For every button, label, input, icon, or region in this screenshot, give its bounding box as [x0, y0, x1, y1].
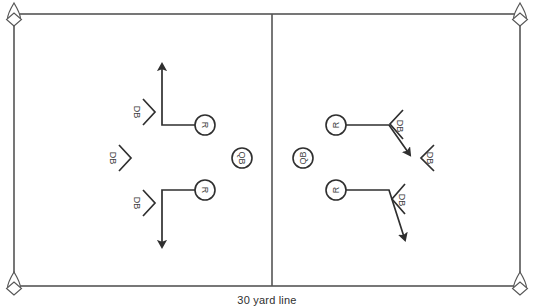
player-token-r-right-top	[326, 115, 346, 135]
player-token-r-right-bottom	[326, 180, 346, 200]
diagram-caption: 30 yard line	[0, 294, 534, 306]
player-token-r-left-bottom	[195, 180, 215, 200]
field-canvas	[0, 0, 534, 308]
drill-diagram: R R QB QB R R DB DB DB DB DB DB 30 yard …	[0, 0, 534, 308]
player-token-qb-right	[293, 148, 313, 168]
player-token-r-left-top	[195, 115, 215, 135]
field-border	[14, 14, 520, 286]
player-token-qb-left	[232, 148, 252, 168]
